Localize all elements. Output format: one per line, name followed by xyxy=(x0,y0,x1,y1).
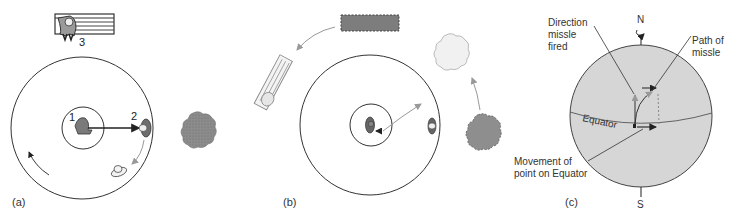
panel-b: (b) xyxy=(254,15,501,208)
label-movement-2: point on Equator xyxy=(514,168,588,179)
tree-ghost-b xyxy=(466,114,501,150)
thrower-1 xyxy=(75,118,92,134)
thrower-b xyxy=(366,117,375,133)
label-path-2: missle xyxy=(692,47,721,58)
label-direction-3: fired xyxy=(548,41,567,52)
marker-2: 2 xyxy=(131,110,137,122)
rotated-bench-b xyxy=(254,55,294,111)
launch-point xyxy=(633,124,636,128)
south-label: S xyxy=(637,199,644,210)
bench-ghost-b xyxy=(341,15,399,31)
label-direction-2: missle xyxy=(548,29,577,40)
panel-a: 3 1 2 (a) xyxy=(11,14,216,208)
bench-motion-arrow xyxy=(297,27,335,50)
rotation-arrow-left-a xyxy=(29,152,49,175)
label-movement-1: Movement of xyxy=(514,156,572,167)
moved-catcher xyxy=(110,166,128,179)
north-label: N xyxy=(637,14,644,25)
tree-a xyxy=(181,112,216,148)
panel-c: N S Equator Direction missle fired Path … xyxy=(514,14,724,210)
label-path-1: Path of xyxy=(692,35,724,46)
marker-3: 3 xyxy=(79,36,85,48)
panel-label-c: (c) xyxy=(565,196,578,208)
ball-path-b xyxy=(383,104,421,131)
rotation-icon xyxy=(636,30,644,35)
label-direction-1: Direction xyxy=(548,17,587,28)
tree-motion-arrow xyxy=(472,78,480,110)
panel-label-b: (b) xyxy=(283,196,296,208)
rotation-arrow-right-a xyxy=(132,140,144,164)
tree-light-b xyxy=(434,34,469,70)
catcher-2 xyxy=(139,119,151,137)
panel-label-a: (a) xyxy=(12,196,25,208)
marker-1: 1 xyxy=(69,111,75,123)
catcher-b xyxy=(428,118,436,134)
